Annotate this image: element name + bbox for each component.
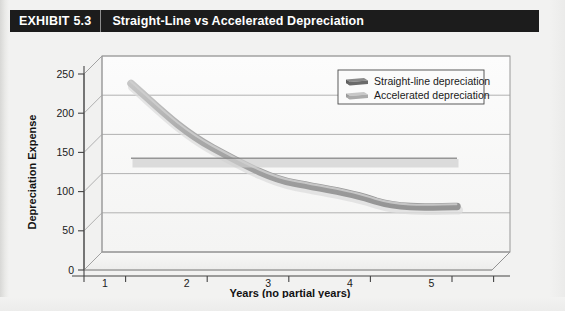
depreciation-line-chart: 250 200 150 100 50 0 Depreciation Expens… [10, 34, 539, 298]
series-straight-line-depreciation [131, 158, 459, 163]
x-axis-title: Years (no partial years) [229, 287, 350, 298]
y-tick-0: 0 [68, 264, 74, 276]
y-tick-50: 50 [62, 224, 74, 236]
x-axis [72, 276, 510, 282]
page-edge-shading-left [0, 0, 9, 311]
plot-floor [84, 252, 510, 270]
y-tick-250: 250 [56, 68, 74, 80]
exhibit-figure: EXHIBIT 5.3 Straight-Line vs Accelerated… [0, 0, 565, 311]
exhibit-title-bar: EXHIBIT 5.3 Straight-Line vs Accelerated… [10, 10, 539, 32]
chart-legend: Straight-line depreciation Accelerated d… [338, 70, 490, 104]
x-tick-1: 1 [102, 277, 108, 289]
legend-label-straight-line: Straight-line depreciation [374, 75, 490, 87]
x-tick-2: 2 [184, 277, 190, 289]
chart-container: 250 200 150 100 50 0 Depreciation Expens… [10, 34, 539, 298]
y-axis-title: Depreciation Expense [26, 115, 38, 230]
y-tick-200: 200 [56, 107, 74, 119]
exhibit-title-text: Straight-Line vs Accelerated Depreciatio… [101, 14, 364, 28]
y-tick-100: 100 [56, 185, 74, 197]
y-tick-150: 150 [56, 146, 74, 158]
page-edge-shading-bottom [0, 297, 565, 311]
exhibit-number-label: EXHIBIT 5.3 [10, 14, 100, 28]
x-tick-5: 5 [428, 277, 434, 289]
page-edge-shading-right [549, 0, 565, 311]
y-axis [78, 66, 84, 276]
y-tick-labels: 250 200 150 100 50 0 [56, 68, 74, 276]
legend-label-accelerated: Accelerated depreciation [374, 89, 490, 101]
plot-left-wall [84, 56, 102, 270]
